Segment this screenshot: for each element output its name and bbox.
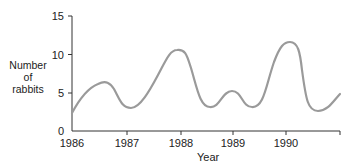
x-tick-1987: 1987 (109, 137, 145, 149)
y-tick-15: 15 (44, 10, 64, 22)
x-tick-1989: 1989 (215, 137, 251, 149)
y-tick-0: 0 (44, 125, 64, 137)
x-tick-1986: 1986 (54, 137, 90, 149)
rabbit-population-line (72, 42, 340, 113)
x-axis-label: Year (197, 151, 219, 163)
y-axis-label: Number of rabbits (0, 59, 56, 95)
x-tick-1990: 1990 (268, 137, 304, 149)
x-tick-1988: 1988 (163, 137, 199, 149)
